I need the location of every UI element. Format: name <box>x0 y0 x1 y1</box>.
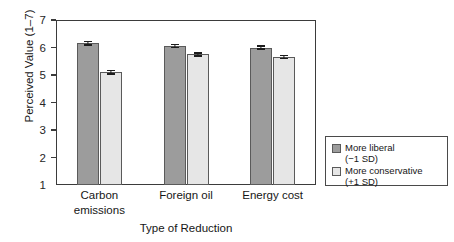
y-axis-title: Perceived Value (1–7) <box>23 0 35 141</box>
y-tick-label: 2 <box>40 150 46 166</box>
legend: More liberal(−1 SD)More conservative(+1 … <box>325 136 448 186</box>
error-bar-cap-bottom <box>194 55 202 56</box>
bar <box>250 48 272 186</box>
error-bar-cap-top <box>171 44 179 45</box>
legend-swatch <box>332 144 341 153</box>
error-bar-cap-top <box>257 45 265 46</box>
bar <box>187 54 209 185</box>
bar <box>273 57 295 185</box>
legend-sublabel: (−1 SD) <box>345 153 395 164</box>
y-tick-label: 7 <box>40 12 46 28</box>
error-bar-cap-bottom <box>171 47 179 48</box>
legend-sublabel: (+1 SD) <box>345 176 423 187</box>
error-bar-cap-top <box>84 41 92 42</box>
x-axis-label: Energy cost <box>223 188 323 203</box>
x-axis-label-line2: emissions <box>49 203 149 218</box>
error-bar <box>280 55 288 59</box>
error-bar-cap-bottom <box>257 48 265 49</box>
bar <box>77 43 99 185</box>
error-bar <box>171 44 179 48</box>
x-axis-label: Foreign oil <box>136 188 236 203</box>
x-axis-label: Carbonemissions <box>49 188 149 218</box>
legend-swatch <box>332 167 341 176</box>
error-bar-cap-top <box>107 70 115 71</box>
x-axis-title: Type of Reduction <box>56 222 316 234</box>
bar <box>100 72 122 185</box>
error-bar-cap-top <box>194 52 202 53</box>
y-tick-label: 6 <box>40 40 46 56</box>
error-bar <box>194 52 202 56</box>
figure-bar-chart: 1234567 Perceived Value (1–7) Carbonemis… <box>0 0 454 242</box>
legend-label: More conservative(+1 SD) <box>345 165 423 187</box>
error-bar-cap-bottom <box>107 73 115 74</box>
bar <box>164 46 186 185</box>
legend-item[interactable]: More liberal(−1 SD) <box>332 142 442 164</box>
y-tick-label: 1 <box>40 177 46 193</box>
error-bar-cap-bottom <box>280 58 288 59</box>
error-bar-cap-bottom <box>84 44 92 45</box>
y-tick-label: 3 <box>40 122 46 138</box>
error-bar-cap-top <box>280 55 288 56</box>
legend-item[interactable]: More conservative(+1 SD) <box>332 165 442 187</box>
bars-layer <box>56 20 316 185</box>
y-tick-label: 4 <box>40 95 46 111</box>
y-tick-label: 5 <box>40 67 46 83</box>
error-bar <box>84 41 92 46</box>
error-bar <box>257 45 265 49</box>
error-bar <box>107 70 115 75</box>
legend-label: More liberal(−1 SD) <box>345 142 395 164</box>
